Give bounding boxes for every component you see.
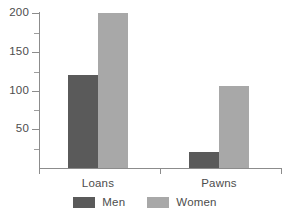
legend-swatch-men-icon xyxy=(73,197,95,208)
x-tick-end xyxy=(281,168,282,174)
legend-entry-women[interactable]: Women xyxy=(147,196,216,208)
y-tick-label-150: 150 xyxy=(0,46,29,58)
bar-loans-women xyxy=(98,13,128,168)
bar-pawns-men xyxy=(189,152,219,168)
legend-label-men: Men xyxy=(102,196,125,208)
bar-loans-men xyxy=(68,75,98,168)
y-tick-label-100: 100 xyxy=(0,85,29,97)
y-tick-minor-125 xyxy=(34,72,39,73)
y-tick-100 xyxy=(32,91,39,92)
y-tick-50 xyxy=(32,129,39,130)
x-category-label-loans: Loans xyxy=(58,177,138,189)
x-tick-start xyxy=(39,168,40,174)
legend-label-women: Women xyxy=(176,196,216,208)
bar-chart: 200 150 100 50 Loans Pawns Men Women xyxy=(0,0,290,224)
y-tick-150 xyxy=(32,52,39,53)
x-tick-middle xyxy=(160,168,161,174)
x-category-label-pawns: Pawns xyxy=(179,177,259,189)
y-tick-minor-175 xyxy=(34,33,39,34)
y-tick-label-50: 50 xyxy=(0,123,29,135)
y-tick-200 xyxy=(32,13,39,14)
legend-swatch-women-icon xyxy=(147,197,169,208)
y-tick-minor-75 xyxy=(34,110,39,111)
legend-entry-men[interactable]: Men xyxy=(73,196,125,208)
y-axis-line xyxy=(39,12,40,169)
y-tick-minor-25 xyxy=(34,149,39,150)
bar-pawns-women xyxy=(219,86,249,168)
chart-legend: Men Women xyxy=(0,196,290,208)
y-tick-label-200: 200 xyxy=(0,7,29,19)
